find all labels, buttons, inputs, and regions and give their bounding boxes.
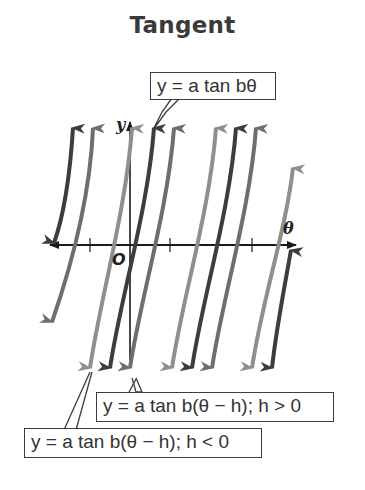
curve-branch-shift-negative <box>172 128 216 368</box>
theta-axis-label: θ <box>283 219 294 238</box>
callout-shift-negative-equation: y = a tan b(θ − h); h < 0 <box>24 428 262 458</box>
curve-branch-shift-positive <box>110 128 154 368</box>
curve-branch-shift-positive <box>54 128 73 243</box>
theta-axis <box>50 238 296 252</box>
callout-parent-equation: y = a tan bθ <box>150 72 276 100</box>
origin-label: O <box>112 250 126 269</box>
callout-shift-positive-equation: y = a tan b(θ − h); h > 0 <box>96 392 334 422</box>
curve-branch-shift-negative <box>90 128 132 368</box>
y-axis-label: y <box>116 115 125 134</box>
